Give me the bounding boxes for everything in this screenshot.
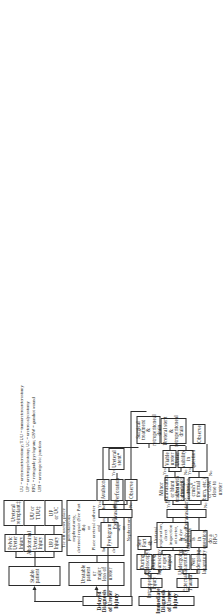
header-delayed-diagnosis: Delayed Diagnosis of Ureter Injury <box>82 596 132 606</box>
node-stent-drain-label: Ureteral stent & retroperitoneal drain <box>162 415 183 446</box>
connector-upj-to-up <box>53 526 54 534</box>
node-observe-delayed[interactable]: Observe <box>124 479 137 501</box>
connector-feed-to-stable <box>34 588 35 602</box>
node-observe-delayed-label: Observe <box>128 481 133 499</box>
node-ureteral-stent-star[interactable]: Ureteral stent* <box>108 448 124 470</box>
node-ureter-damage[interactable]: Ureter damage (contusion, crush°, therma… <box>188 477 208 501</box>
node-uu-or-tuu-label: UU or TUU‡ <box>29 506 40 519</box>
edge-label-no-damage: No <box>207 470 212 476</box>
legend-line-1: UU = ureteroureterostomy; TUU = transure… <box>18 385 24 492</box>
node-pelvic-ureter-injury-label: Pelvic Ureter Injury <box>7 536 23 550</box>
node-observe-immediate-label: Observe <box>196 425 201 443</box>
node-ureter-damage-label: Ureter damage (contusion, crush°, therma… <box>174 477 222 501</box>
edge-label-yes-damage: Yes <box>186 468 191 475</box>
node-surgical-treatment-drain[interactable]: Surgical treatment & retroperitoneal dra… <box>136 416 160 444</box>
connector-surgical-in <box>148 444 149 448</box>
connector-extrav1-yes <box>102 501 103 505</box>
connector-stable-to-pelvic <box>15 552 16 558</box>
connector-minor-split-h <box>174 472 175 477</box>
legend: UU = ureteroureterostomy; TUU = transure… <box>18 385 42 492</box>
connector-rpg-to-extrav2 <box>198 518 199 530</box>
connector-explore-merge-v <box>161 550 189 551</box>
node-during-lap-or-open[interactable]: During laparoscopy or open surgery <box>152 554 170 570</box>
node-if-diagnosis-in-question-rpg[interactable]: If diagnosis is in question, do a RPG <box>190 530 207 548</box>
arrow-to-stable-patient <box>32 586 36 590</box>
node-extravasation-question-delayed[interactable]: Extravasation? <box>98 509 132 518</box>
node-external-trauma[interactable]: External Trauma <box>176 578 198 588</box>
legend-line-4: UPJ = ureteropelvic junction <box>36 385 42 492</box>
legend-line-2: UP = ureteropyelostomy; UC = ureterocaly… <box>24 385 30 492</box>
flowchart-rotated-wrapper: Stable patient Unstable patient or major… <box>0 0 201 610</box>
node-ureteral-reimplant-label: Ureteral reimplant‡ <box>10 501 21 524</box>
connector-undergoinglap-to-explore <box>182 551 183 554</box>
connector-viability-to-surgical <box>185 446 186 450</box>
connector-extrav1-split-h <box>114 505 115 509</box>
node-abdominal-ureter-injury-label: Abdominal Ureter Injury <box>26 531 42 555</box>
node-abdominal-ureter-injury[interactable]: Abdominal Ureter Injury <box>23 534 46 552</box>
node-uu-or-tuu[interactable]: UU or TUU‡ <box>23 500 46 526</box>
node-unstable-patient[interactable]: Unstable patient or major loss of ureter <box>68 562 124 586</box>
node-up-or-uc-label: UP or UC <box>48 506 59 519</box>
connector-lower-return-v <box>130 411 146 412</box>
connector-extrav2-no <box>200 501 201 505</box>
header-immediate-diagnosis-label: Immediate Diagnosis of Ureter Injury <box>155 588 177 613</box>
connector-endoscopy-to-part4b <box>144 550 145 554</box>
connector-delayed-bus <box>107 548 108 586</box>
node-not-undergoing-laparotomy[interactable]: Not undergoing laparotomy <box>190 554 206 570</box>
connector-delayed-to-pyelogram <box>107 586 108 596</box>
node-extravasation-q1-label: Extravasation? <box>112 498 117 530</box>
edge-label-yes-perforation: Yes <box>110 469 115 476</box>
node-surgical-treatment-label: Surgical treatment & retroperitoneal dra… <box>135 414 162 445</box>
node-intraoperative-injury[interactable]: Intraoperative Injury <box>140 578 162 588</box>
connector-pyelogram-to-extrav1 <box>107 518 108 522</box>
node-external-trauma-label: External Trauma <box>182 574 193 592</box>
connector-to-ureteral-exploration <box>172 548 173 551</box>
node-see-part-4b-label: See Part 4b <box>136 538 152 548</box>
node-stable-patient[interactable]: Stable patient <box>8 566 60 586</box>
node-ureteral-stent-star-label: Ureteral stent* <box>111 450 122 468</box>
connector-damage-split-h <box>198 472 199 477</box>
diagram-canvas: Stable patient Unstable patient or major… <box>0 0 201 610</box>
node-avulsion[interactable]: Avulsion <box>96 479 109 501</box>
node-upj-injury-label: UPJ Injury <box>48 536 59 549</box>
connector-trauma-split-h <box>188 574 189 578</box>
connector-stable-to-upj <box>53 552 54 558</box>
connector-lapopen-to-explore <box>161 551 162 554</box>
node-ureter-viability-in-question[interactable]: Ureter viability in question <box>177 450 193 468</box>
connector-damage-no-to-observe <box>206 444 207 468</box>
edge-label-no-extrav2: No <box>202 502 207 508</box>
connector-unstable-to-treatment <box>96 556 97 562</box>
node-viable-ureter-label: Viable ureter <box>164 452 175 466</box>
connector-abdominal-to-uu <box>34 526 35 534</box>
legend-line-3: RPG = retrograde pyelogram; GSW = gunsho… <box>30 385 36 492</box>
connector-pelvic-to-reimplant <box>15 526 16 534</box>
connector-extrav2-split-h <box>186 505 187 509</box>
node-extravasation-question-immediate[interactable]: Extravasation? <box>166 509 206 518</box>
connector-to-surgical-treatment <box>102 447 138 448</box>
connector-explore-to-extrav2 <box>172 518 173 522</box>
connector-stable-bus-h <box>34 558 35 566</box>
node-ureter-viability-label: Ureter viability in question <box>174 450 195 468</box>
connector-immediate-split-h <box>168 592 169 596</box>
edge-label-yes-minor: Yes <box>161 468 166 475</box>
connector-minor-yes <box>168 468 169 472</box>
node-stable-patient-label: Stable patient <box>29 568 40 584</box>
node-perforation-label: Perforation <box>114 478 119 502</box>
node-see-part-4b[interactable]: See Part 4b <box>137 536 151 550</box>
node-undergoing-laparotomy[interactable]: Undergoing laparotomy <box>174 554 190 570</box>
edge-label-no-extrav1: No <box>127 502 132 508</box>
connector-avulsion-to-surgical <box>102 448 103 479</box>
node-perforation[interactable]: Perforation <box>110 479 123 501</box>
node-ureteral-stent-retroperitoneal-drain[interactable]: Ureteral stent & retroperitoneal drain <box>160 418 186 444</box>
connector-damage-yes <box>192 468 193 472</box>
node-avulsion-label: Avulsion <box>100 480 105 499</box>
node-rpg-label: If diagnosis is in question, do a RPG <box>180 529 217 549</box>
edge-label-yes-extrav1: Yes <box>96 501 101 508</box>
connector-minor-no <box>180 468 181 472</box>
connector-perforation-to-stent <box>116 473 117 479</box>
node-observe-immediate[interactable]: Observe <box>192 424 205 444</box>
